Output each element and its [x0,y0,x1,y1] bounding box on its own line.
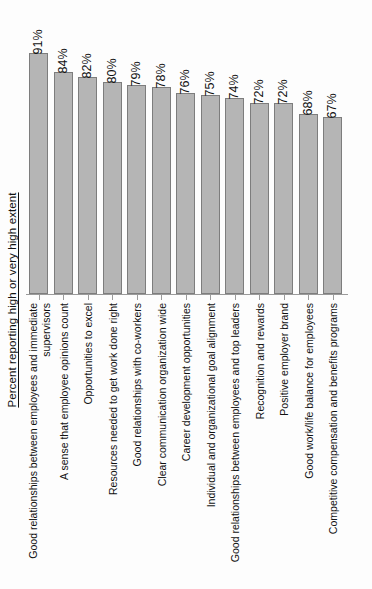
axis-tick [161,294,162,300]
axis-tick [39,294,40,300]
category-label: Good relationships between employees and… [27,303,51,585]
category-label: Resources needed to get work done right [101,303,125,585]
bar-slot: 72% [272,0,296,294]
axis-tick [235,294,236,300]
category-label-text: Good relationships with co-workers [131,303,144,466]
bar[interactable] [54,72,73,294]
axis-tick [112,294,113,300]
bar-chart: Percent reporting high or very high exte… [0,0,372,589]
axis-tick [284,294,285,300]
category-label: Clear communication organization wide [150,303,174,585]
bar[interactable] [127,85,146,294]
category-label: Good relationships between employees and… [223,303,247,585]
category-label: Individual and organizational goal align… [199,303,223,585]
bar-slot: 78% [150,0,174,294]
bars-container: 91%84%82%80%79%78%76%75%74%72%72%68%67% [26,0,350,294]
category-label: Opportunities to excel [76,303,100,585]
category-label-text: Clear communication organization wide [155,303,168,486]
bar-slot: 84% [52,0,76,294]
category-label-text: Competitive compensation and benefits pr… [327,303,340,534]
bar[interactable] [274,103,293,294]
category-label-text: Positive employer brand [278,303,291,416]
category-label: Good relationships with co-workers [125,303,149,585]
bar[interactable] [152,87,171,294]
y-axis-title-container: Percent reporting high or very high exte… [0,150,24,450]
axis-tick [210,294,211,300]
bar-slot: 82% [76,0,100,294]
bar[interactable] [103,82,122,294]
axis-tick [88,294,89,300]
bar-slot: 74% [223,0,247,294]
category-label: Competitive compensation and benefits pr… [321,303,345,585]
category-label: Positive employer brand [272,303,296,585]
bar-slot: 79% [125,0,149,294]
plot-area: 91%84%82%80%79%78%76%75%74%72%72%68%67% … [26,0,350,589]
category-label-text: Recognition and rewards [253,303,266,419]
axis-tick [186,294,187,300]
bar-slot: 72% [248,0,272,294]
bar[interactable] [176,93,195,294]
axis-tick [137,294,138,300]
category-label: A sense that employee opinions count [52,303,76,585]
bar-slot: 91% [27,0,51,294]
bar[interactable] [250,103,269,294]
category-label-text: Opportunities to excel [82,303,95,405]
axis-tick [308,294,309,300]
bar-slot: 80% [101,0,125,294]
bar[interactable] [78,77,97,294]
bar[interactable] [323,117,342,294]
bar[interactable] [299,114,318,294]
category-label-text: Good relationships between employees and… [229,303,242,562]
category-label: Recognition and rewards [248,303,272,585]
axis-tick [333,294,334,300]
bar-slot: 67% [321,0,345,294]
axis-tick [259,294,260,300]
bar[interactable] [225,98,244,294]
category-label-text: Good relationships between employees and… [27,303,52,559]
category-label-text: Resources needed to get work done right [106,303,119,495]
bar-slot: 76% [174,0,198,294]
category-label-text: Good work/life balance for employees [302,303,315,479]
category-label-text: Individual and organizational goal align… [204,303,217,507]
bar-value-label: 67% [313,99,351,113]
y-axis-title: Percent reporting high or very high exte… [6,192,18,407]
bar-slot: 68% [297,0,321,294]
category-label-text: Career development opportunities [180,303,193,461]
axis-tick [63,294,64,300]
category-label: Good work/life balance for employees [297,303,321,585]
bar[interactable] [29,53,48,294]
bar[interactable] [201,95,220,294]
category-label: Career development opportunities [174,303,198,585]
category-axis-line [26,294,348,295]
bar-slot: 75% [199,0,223,294]
category-label-text: A sense that employee opinions count [57,303,70,480]
